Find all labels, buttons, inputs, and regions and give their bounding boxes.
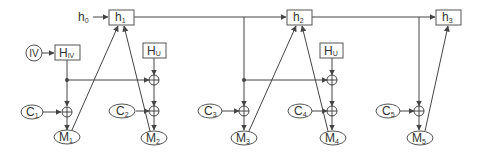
counter-c5: C5 [376,104,400,118]
counter-c3: C3 [198,104,222,118]
edge-m5-h3 [425,26,448,131]
xor-icon [327,106,337,116]
message-m2: M2 [141,131,167,145]
edge-m3-h2 [249,26,296,131]
message-m5: M5 [407,131,433,145]
xor-icon [239,106,249,116]
function-box-h-u-2: HU [320,43,343,58]
iv-node: IV [26,45,42,61]
hash-chain-diagram: h0 h1 h2 h3 IV HIV HU HU C1 C2 C3 [0,0,482,154]
xor-icon [149,75,159,85]
svg-text:IV: IV [29,48,39,59]
hash-node-h3: h3 [436,10,461,25]
xor-icon [149,106,159,116]
xor-icon [62,107,72,117]
function-box-h-u-1: HU [143,43,166,58]
message-m3: M3 [231,131,257,145]
message-m4: M4 [320,131,346,145]
xor-icon [414,106,424,116]
counter-c1: C1 [21,105,43,119]
hash-node-h2: h2 [287,10,312,25]
counter-c4: C4 [288,104,312,118]
input-h0-label: h0 [78,10,89,24]
message-m1: M1 [54,130,80,144]
xor-icon [327,75,337,85]
function-box-h-iv: HIV [55,45,80,60]
counter-c2: C2 [109,104,135,118]
hash-node-h1: h1 [109,10,134,25]
